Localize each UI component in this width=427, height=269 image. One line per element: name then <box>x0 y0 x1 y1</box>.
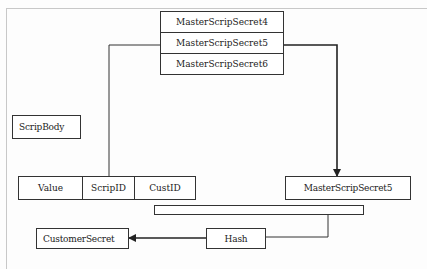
master-secret-5: MasterScripSecret5 <box>160 32 284 54</box>
field-custid: CustID <box>134 177 195 199</box>
hash-box: Hash <box>206 228 266 249</box>
master-secret-6: MasterScripSecret6 <box>160 53 284 75</box>
customer-secret-box: CustomerSecret <box>36 228 129 249</box>
field-scripid: ScripID <box>82 177 134 199</box>
master-secret-4: MasterScripSecret4 <box>160 11 284 33</box>
scrip-body-box: ScripBody <box>12 115 81 139</box>
selected-secret-box: MasterScripSecret5 <box>285 176 411 200</box>
concatenation-bar <box>154 205 364 215</box>
master-secret-stack: MasterScripSecret4 MasterScripSecret5 Ma… <box>160 11 284 75</box>
field-value: Value <box>19 177 82 199</box>
scrip-fields-row: Value ScripID CustID <box>18 176 196 200</box>
